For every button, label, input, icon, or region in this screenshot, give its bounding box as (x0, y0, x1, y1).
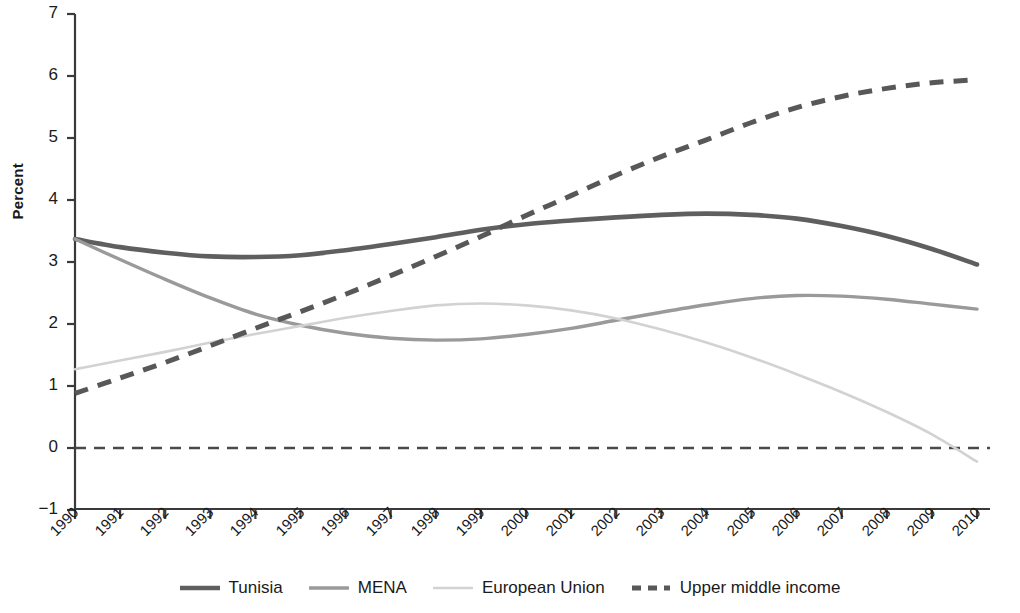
legend-item: Tunisia (180, 578, 283, 598)
y-axis-title: Percent (9, 190, 26, 220)
series-line-european-union (75, 304, 977, 462)
series-paths (75, 80, 977, 462)
series-line-tunisia (75, 214, 977, 265)
series-line-upper-middle-income (75, 80, 977, 394)
y-axis-tick-label: 7 (28, 3, 58, 23)
y-axis-ticks (67, 14, 75, 510)
y-axis-tick-label: 2 (28, 313, 58, 333)
legend-label: European Union (482, 578, 605, 598)
chart-legend: TunisiaMENAEuropean UnionUpper middle in… (0, 578, 1020, 598)
legend-swatch-european-union-icon (433, 581, 473, 595)
legend-item: Upper middle income (631, 578, 841, 598)
y-axis-tick-label: 1 (28, 375, 58, 395)
y-axis-tick-label: −1 (28, 499, 58, 519)
y-axis-tick-label: 0 (28, 437, 58, 457)
y-axis-tick-label: 6 (28, 65, 58, 85)
y-axis-tick-label: 4 (28, 189, 58, 209)
legend-swatch-upper-middle-income-icon (631, 581, 671, 595)
chart-figure: Percent 76543210−1 199019911992199319941… (0, 0, 1020, 613)
legend-swatch-mena-icon (309, 581, 349, 595)
y-axis-tick-label: 3 (28, 251, 58, 271)
legend-label: Upper middle income (680, 578, 841, 598)
legend-swatch-tunisia-icon (180, 581, 220, 595)
legend-label: MENA (358, 578, 407, 598)
axis-lines (75, 14, 990, 509)
y-axis-tick-label: 5 (28, 127, 58, 147)
legend-label: Tunisia (229, 578, 283, 598)
legend-item: European Union (433, 578, 605, 598)
legend-item: MENA (309, 578, 407, 598)
